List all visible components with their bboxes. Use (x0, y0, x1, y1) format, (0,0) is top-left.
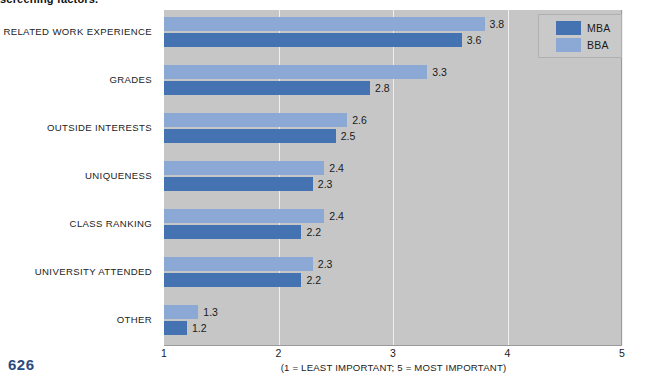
bar-value-mba: 2.3 (318, 177, 333, 191)
bar-value-mba: 2.5 (341, 129, 356, 143)
category-label: CLASS RANKING (70, 218, 152, 229)
bar-mba (164, 33, 462, 47)
legend-swatch-mba (556, 21, 581, 35)
bar-bba (164, 257, 313, 271)
bar-value-bba: 2.4 (329, 161, 344, 175)
category-label: GRADES (109, 74, 152, 85)
x-tick-2: 2 (276, 347, 282, 359)
chart-group-row: 3.32.8 (164, 63, 621, 101)
gridline-5 (622, 10, 623, 345)
category-label: UNIVERSITY ATTENDED (35, 266, 152, 277)
bar-bba (164, 113, 347, 127)
bar-mba (164, 225, 301, 239)
bar-mba (164, 321, 187, 335)
category-label: OUTSIDE INTERESTS (47, 122, 152, 133)
bar-bba (164, 65, 427, 79)
bar-value-mba: 1.2 (192, 321, 207, 335)
x-axis-ticks: 12345 (164, 347, 623, 363)
bar-bba (164, 209, 324, 223)
chart-group-row: 2.42.3 (164, 159, 621, 197)
bar-value-bba: 2.4 (329, 209, 344, 223)
bar-bba (164, 161, 324, 175)
legend-label-mba: MBA (587, 20, 611, 36)
chart-group-row: 1.31.2 (164, 303, 621, 341)
x-axis-caption: (1 = LEAST IMPORTANT; 5 = MOST IMPORTANT… (164, 362, 623, 373)
bar-value-bba: 2.6 (352, 113, 367, 127)
chart-group-row: 2.32.2 (164, 255, 621, 293)
x-tick-1: 1 (161, 347, 167, 359)
bar-value-bba: 1.3 (203, 305, 218, 319)
page-number: 626 (8, 356, 35, 373)
bar-value-bba: 3.8 (490, 17, 505, 31)
page-headline: screening factors. (0, 0, 320, 7)
legend-label-bba: BBA (587, 37, 609, 53)
bar-value-mba: 2.8 (375, 81, 390, 95)
bar-mba (164, 273, 301, 287)
category-label: OTHER (117, 314, 152, 325)
bar-mba (164, 129, 336, 143)
category-axis-labels: RELATED WORK EXPERIENCEGRADESOUTSIDE INT… (0, 10, 158, 346)
bar-bba (164, 305, 198, 319)
bar-mba (164, 81, 370, 95)
chart-group-row: 2.42.2 (164, 207, 621, 245)
bar-value-mba: 2.2 (306, 225, 321, 239)
bar-value-mba: 3.6 (467, 33, 482, 47)
x-tick-4: 4 (505, 347, 511, 359)
bar-value-mba: 2.2 (306, 273, 321, 287)
legend-swatch-bba (556, 38, 581, 52)
category-label: RELATED WORK EXPERIENCE (3, 26, 152, 37)
category-label: UNIQUENESS (85, 170, 152, 181)
x-tick-5: 5 (619, 347, 625, 359)
bar-mba (164, 177, 313, 191)
bar-bba (164, 17, 485, 31)
chart-group-row: 2.62.5 (164, 111, 621, 149)
bar-value-bba: 2.3 (318, 257, 333, 271)
bar-value-bba: 3.3 (432, 65, 447, 79)
chart-plot-area: 3.83.63.32.82.62.52.42.32.42.22.32.21.31… (164, 10, 622, 346)
chart-legend: MBABBA (538, 14, 622, 58)
x-tick-3: 3 (390, 347, 396, 359)
